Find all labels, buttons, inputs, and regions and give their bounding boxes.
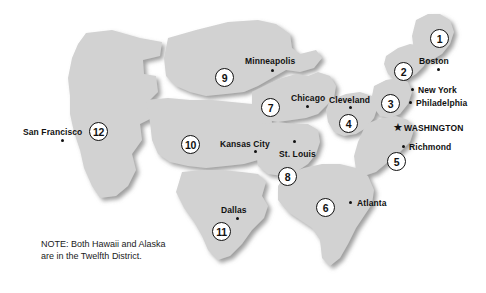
city-label-chicago: Chicago <box>291 94 325 103</box>
map-note: NOTE: Both Hawaii and Alaska are in the … <box>41 238 166 262</box>
capital-star-icon: ★ <box>393 122 403 133</box>
city-label-washington: WASHINGTON <box>404 124 463 133</box>
district-marker-4[interactable]: 4 <box>339 114 358 133</box>
city-label-boston: Boston <box>419 57 449 66</box>
district-shape-11 <box>176 170 268 260</box>
map-note-line-2: are in the Twelfth District. <box>41 250 166 262</box>
district-marker-7[interactable]: 7 <box>261 98 280 117</box>
city-label-atlanta: Atlanta <box>357 199 387 208</box>
district-shape-12 <box>68 30 162 198</box>
district-shape-10 <box>146 98 272 168</box>
city-label-st-louis: St. Louis <box>279 150 316 159</box>
city-label-cleveland: Cleveland <box>329 96 370 105</box>
district-marker-1[interactable]: 1 <box>430 29 449 48</box>
city-label-san-francisco: San Francisco <box>23 128 82 137</box>
district-marker-10[interactable]: 10 <box>181 135 200 154</box>
district-marker-8[interactable]: 8 <box>278 167 297 186</box>
city-label-minneapolis: Minneapolis <box>245 57 295 66</box>
city-label-kansas-city: Kansas City <box>220 140 270 149</box>
district-marker-2[interactable]: 2 <box>394 62 413 81</box>
district-marker-12[interactable]: 12 <box>89 122 108 141</box>
district-marker-9[interactable]: 9 <box>215 68 234 87</box>
district-marker-5[interactable]: 5 <box>387 152 406 171</box>
city-label-richmond: Richmond <box>409 143 451 152</box>
district-marker-6[interactable]: 6 <box>316 198 335 217</box>
city-label-new-york: New York <box>418 86 457 95</box>
map-note-line-1: NOTE: Both Hawaii and Alaska <box>41 238 166 250</box>
district-marker-11[interactable]: 11 <box>212 222 231 241</box>
city-label-dallas: Dallas <box>221 206 247 215</box>
district-marker-3[interactable]: 3 <box>381 94 400 113</box>
map-canvas: 123456789101112 BostonNew YorkPhiladelph… <box>0 0 486 293</box>
city-label-philadelphia: Philadelphia <box>416 99 467 108</box>
